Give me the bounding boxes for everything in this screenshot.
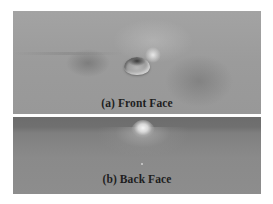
surface-streak [13,52,123,55]
back-face-caption: (b) Back Face [13,173,261,185]
bright-bump [129,120,157,138]
front-face-panel: (a) Front Face [13,11,261,114]
droplet-blister [124,57,150,75]
back-face-panel: (b) Back Face [13,117,261,194]
surface-speck [141,163,143,165]
front-face-caption: (a) Front Face [13,97,261,109]
